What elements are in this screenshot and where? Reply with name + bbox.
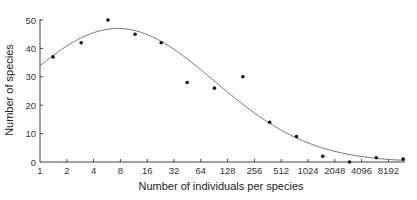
data-points: [51, 18, 405, 164]
data-point: [295, 135, 299, 139]
x-tick-label: 64: [196, 165, 207, 176]
y-tick-label: 0: [31, 157, 36, 168]
data-point: [401, 157, 405, 161]
chart: 01020304050 1248163264128256512102420484…: [0, 0, 417, 200]
y-axis-label: Number of species: [3, 44, 15, 136]
x-tick-label: 2048: [324, 165, 345, 176]
x-tick-label: 8: [118, 165, 123, 176]
x-tick-label: 32: [169, 165, 180, 176]
x-tick-label: 256: [246, 165, 262, 176]
fitted-curve: [40, 29, 405, 161]
x-axis-label: Number of individuals per species: [138, 180, 304, 192]
data-point: [241, 75, 245, 79]
y-tick-label: 20: [25, 100, 36, 111]
data-point: [268, 120, 272, 124]
data-point: [321, 155, 325, 159]
y-tick-label: 50: [25, 15, 36, 26]
data-point: [159, 41, 163, 45]
data-point: [79, 41, 83, 45]
x-tick-label: 2: [64, 165, 69, 176]
x-tick-label: 16: [142, 165, 153, 176]
data-point: [106, 18, 110, 22]
y-tick-label: 40: [25, 43, 36, 54]
data-point: [348, 160, 352, 164]
data-point: [185, 81, 189, 85]
data-point: [51, 55, 55, 59]
data-point: [213, 86, 217, 90]
y-tick-label: 30: [25, 71, 36, 82]
x-tick-label: 8192: [378, 165, 399, 176]
data-point: [375, 156, 379, 160]
y-tick-label: 10: [25, 128, 36, 139]
x-tick-label: 4096: [351, 165, 372, 176]
x-tick-label: 128: [220, 165, 236, 176]
x-tick-label: 1024: [297, 165, 318, 176]
x-tick-label: 4: [91, 165, 96, 176]
data-point: [133, 32, 137, 36]
x-tick-label: 1: [37, 165, 42, 176]
x-tick-label: 512: [273, 165, 289, 176]
